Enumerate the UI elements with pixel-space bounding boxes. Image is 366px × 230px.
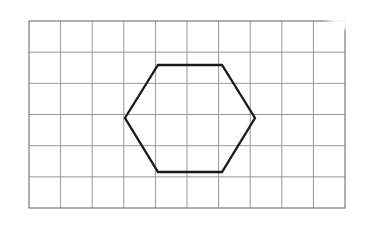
hexagon-grid-figure: [0, 0, 366, 230]
figure-root: [0, 0, 366, 230]
scan-fade-overlay: [288, 18, 366, 52]
